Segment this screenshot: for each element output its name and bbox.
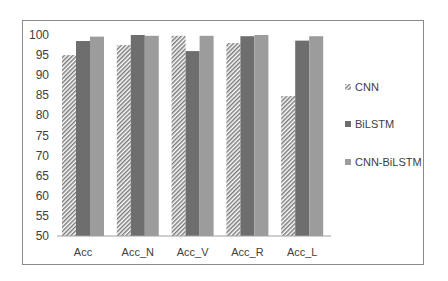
bar-cnn-bilstm-acc — [90, 37, 104, 236]
bar-cnn-acc_v — [172, 36, 186, 236]
bar-cnn-bilstm-acc_n — [145, 36, 159, 236]
bar-bilstm-acc_r — [240, 36, 254, 236]
x-tick-label: Acc_N — [122, 246, 154, 258]
bar-cnn-acc_n — [117, 45, 131, 236]
bar-cnn-acc — [62, 55, 76, 236]
bar-bilstm-acc — [76, 41, 90, 236]
legend-label-cnn-bilstm: CNN-BiLSTM — [355, 156, 422, 168]
bar-bilstm-acc_l — [295, 41, 309, 236]
bars — [62, 35, 323, 236]
bar-bilstm-acc_v — [186, 51, 200, 236]
y-tick-label: 90 — [36, 68, 50, 82]
legend: CNNBiLSTMCNN-BiLSTM — [345, 81, 422, 168]
legend-swatch-cnn — [345, 84, 351, 90]
y-tick-label: 85 — [36, 88, 50, 102]
x-tick-label: Acc_R — [231, 246, 263, 258]
bar-cnn-acc_r — [226, 43, 240, 236]
bar-cnn-bilstm-acc_r — [254, 35, 268, 236]
y-tick-label: 60 — [36, 189, 50, 203]
legend-label-cnn: CNN — [355, 81, 379, 93]
x-tick-label: Acc — [74, 246, 93, 258]
bar-cnn-bilstm-acc_l — [309, 36, 323, 236]
x-tick-label: Acc_L — [287, 246, 318, 258]
bar-cnn-bilstm-acc_v — [200, 36, 214, 236]
bar-chart: 50556065707580859095100 AccAcc_NAcc_VAcc… — [0, 0, 448, 281]
y-tick-label: 70 — [36, 149, 50, 163]
legend-swatch-cnn-bilstm — [345, 159, 351, 165]
x-tick-label: Acc_V — [177, 246, 209, 258]
legend-label-bilstm: BiLSTM — [355, 118, 394, 130]
y-tick-label: 80 — [36, 108, 50, 122]
y-tick-label: 75 — [36, 129, 50, 143]
y-tick-label: 55 — [36, 209, 50, 223]
y-tick-label: 100 — [29, 28, 49, 42]
y-tick-label: 65 — [36, 169, 50, 183]
bar-bilstm-acc_n — [131, 35, 145, 236]
y-tick-label: 95 — [36, 48, 50, 62]
x-axis: AccAcc_NAcc_VAcc_RAcc_L — [74, 246, 318, 258]
legend-swatch-bilstm — [345, 121, 351, 127]
bar-cnn-acc_l — [281, 96, 295, 236]
y-axis: 50556065707580859095100 — [29, 28, 49, 243]
y-tick-label: 50 — [36, 229, 50, 243]
